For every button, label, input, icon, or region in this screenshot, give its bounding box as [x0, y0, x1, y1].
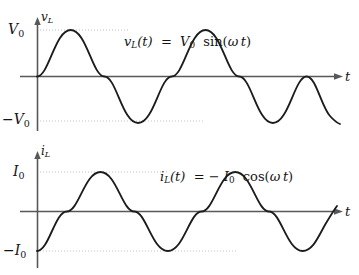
ytick-v0-positive: V0: [8, 22, 24, 38]
voltage-y-axis-label: vL: [41, 11, 53, 24]
current-y-axis-arrowhead: [34, 151, 40, 159]
voltage-t-axis-label: t: [345, 70, 350, 83]
ytick-v0-negative: −V0: [2, 112, 30, 128]
voltage-y-axis-arrowhead: [34, 17, 40, 25]
current-equation: iL(t) = − I0 cos(ω t): [160, 170, 293, 185]
voltage-equation: vL(t) = V0 sin(ω t): [124, 35, 251, 50]
voltage-t-axis-arrowhead: [334, 73, 343, 80]
ytick-i0-positive: I0: [13, 164, 25, 180]
ytick-i0-negative: −I0: [3, 243, 26, 259]
current-t-axis-label: t: [345, 205, 350, 218]
current-y-axis-label: iL: [41, 145, 50, 158]
waveform-figure: vL V0 −V0 t vL(t) = V0 sin(ω t) iL I0 −I…: [0, 0, 359, 275]
